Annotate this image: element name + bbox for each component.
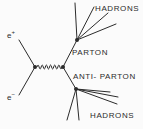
label-electron: e− xyxy=(7,93,15,102)
antiparton-hadronization-vertex-dot xyxy=(74,87,78,91)
label-parton: PARTON xyxy=(72,48,108,57)
hadron-jet-top-line-4 xyxy=(77,24,116,40)
virtual-photon-propagator xyxy=(37,65,62,69)
electron-line xyxy=(19,67,35,95)
hadron-jet-bottom-line-1 xyxy=(67,89,76,120)
label-hadrons-bottom: HADRONS xyxy=(90,111,134,120)
hadron-jet-top-line-1 xyxy=(75,3,77,40)
hadron-jet-top-line-3 xyxy=(77,13,108,40)
annihilation-vertex-dot xyxy=(33,65,37,69)
photon-decay-vertex-dot xyxy=(61,65,65,69)
hadron-jet-bottom-line-2 xyxy=(76,89,79,120)
diagram-canvas xyxy=(0,0,143,129)
parton-hadronization-vertex-dot xyxy=(75,38,79,42)
label-positron: e+ xyxy=(7,31,15,40)
label-hadrons-top: HADRONS xyxy=(95,4,139,13)
label-anti-parton: ANTI- PARTON xyxy=(73,72,136,81)
hadron-jet-bottom-line-4 xyxy=(76,89,118,97)
electron-charge: − xyxy=(11,91,15,97)
positron-line xyxy=(19,40,35,67)
positron-charge: + xyxy=(11,29,15,35)
hadron-jet-top-line-2 xyxy=(77,7,94,40)
feynman-diagram-figure: HADRONS PARTON ANTI- PARTON HADRONS e+ e… xyxy=(0,0,143,129)
